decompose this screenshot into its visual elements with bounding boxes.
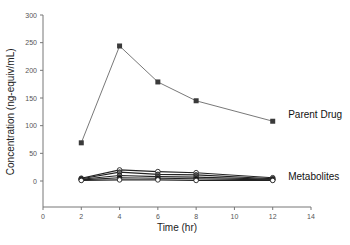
- y-tick-label: 300: [25, 12, 37, 19]
- series-line: [81, 46, 272, 143]
- data-point-circle: [117, 178, 122, 183]
- data-point-circle: [194, 178, 199, 183]
- y-axis-title: Concentration (ng-equiv/mL): [5, 48, 16, 175]
- x-tick-label: 8: [194, 213, 198, 220]
- y-tick-label: 150: [25, 95, 37, 102]
- x-tick-label: 0: [41, 213, 45, 220]
- data-point-circle: [79, 178, 84, 183]
- series-parent-drug: [79, 43, 275, 145]
- data-point-square: [194, 98, 199, 103]
- series-line: [81, 180, 272, 181]
- data-point-square: [155, 79, 160, 84]
- data-point-square: [270, 119, 275, 124]
- data-point-square: [117, 43, 122, 48]
- data-series: [79, 43, 275, 182]
- y-tick-label: 200: [25, 67, 37, 74]
- y-tick-label: 50: [29, 150, 37, 157]
- x-tick-label: 6: [156, 213, 160, 220]
- axes: 05010015020025030002468101214: [25, 12, 315, 221]
- pharmacokinetic-line-chart: 05010015020025030002468101214 Time (hr)C…: [0, 0, 350, 245]
- annotation-parent-drug: Parent Drug: [288, 109, 342, 120]
- x-tick-label: 14: [307, 213, 315, 220]
- y-tick-label: 250: [25, 39, 37, 46]
- y-tick-label: 0: [33, 178, 37, 185]
- x-axis-title: Time (hr): [157, 222, 197, 233]
- data-point-square: [79, 140, 84, 145]
- x-tick-label: 10: [231, 213, 239, 220]
- labels: Time (hr)Concentration (ng-equiv/mL)Pare…: [5, 48, 342, 233]
- data-point-circle: [156, 178, 161, 183]
- annotation-metabolites: Metabolites: [288, 171, 339, 182]
- y-tick-label: 100: [25, 122, 37, 129]
- x-tick-label: 12: [269, 213, 277, 220]
- x-tick-label: 4: [118, 213, 122, 220]
- data-point-circle: [270, 178, 275, 183]
- x-tick-label: 2: [79, 213, 83, 220]
